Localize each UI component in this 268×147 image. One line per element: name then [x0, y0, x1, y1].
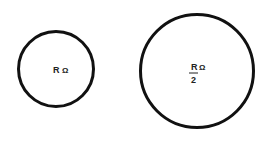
diagram-canvas: R Ω R 2 Ω: [0, 0, 268, 147]
large-circle-label-denominator: 2: [191, 75, 196, 85]
large-circle-label-numerator: R: [191, 62, 198, 72]
ohm-icon: Ω: [199, 63, 206, 72]
ohm-icon: Ω: [62, 66, 69, 75]
small-circle-label: R: [53, 65, 60, 75]
